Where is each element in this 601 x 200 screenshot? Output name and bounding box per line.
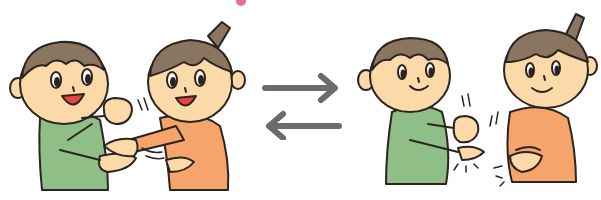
scene-left-janken (0, 0, 250, 200)
girl-right (490, 14, 597, 186)
illustration-description: Two children playing rock-paper-scissors… (0, 0, 1, 1)
bidirectional-arrows (255, 70, 350, 140)
scene-right-janken (350, 0, 601, 200)
right-arrow-icon (265, 76, 335, 100)
boy-left (10, 42, 148, 190)
boy-right (358, 38, 484, 184)
left-arrow-icon (269, 114, 339, 138)
